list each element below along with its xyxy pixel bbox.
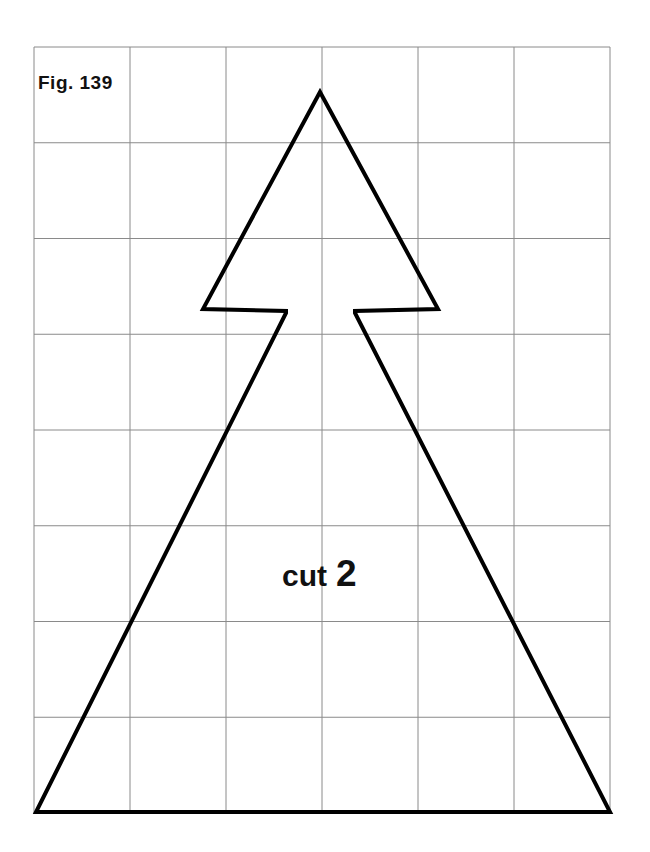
cut-instruction-label: cut [282, 559, 327, 592]
figure-page: Fig. 139 cut 2 [0, 0, 650, 852]
page-background [0, 0, 650, 852]
pattern-figure-svg: Fig. 139 cut 2 [0, 0, 650, 852]
cut-quantity-label: 2 [336, 553, 357, 594]
figure-label: Fig. 139 [38, 72, 113, 93]
